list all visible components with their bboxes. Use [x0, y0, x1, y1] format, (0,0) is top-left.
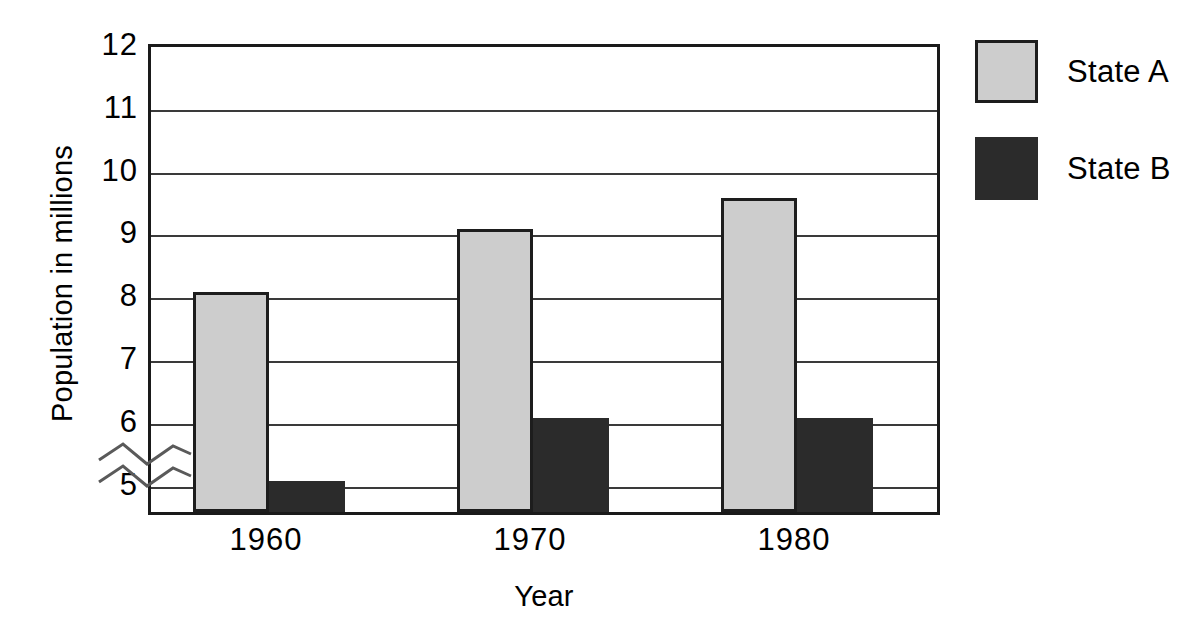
x-axis-tick-label: 1980 — [758, 524, 831, 555]
y-axis-tick-labels: 12111098765 — [86, 0, 138, 641]
x-axis-title: Year — [148, 580, 940, 613]
y-axis-tick-label: 9 — [86, 217, 138, 248]
legend-swatch — [975, 137, 1038, 200]
y-axis-tick-label: 11 — [86, 91, 138, 122]
bar-chart-figure: Population in millions 12111098765 19601… — [0, 0, 1193, 641]
plot-area — [148, 44, 940, 515]
bar[interactable] — [269, 481, 345, 512]
x-axis-tick-label: 1970 — [494, 524, 567, 555]
legend-item[interactable]: State A — [975, 40, 1169, 103]
y-axis-tick-label: 10 — [86, 154, 138, 185]
x-axis-tick-labels: 196019701980 — [148, 524, 940, 570]
y-axis-title: Population in millions — [46, 54, 79, 514]
y-axis-tick-label: 8 — [86, 280, 138, 311]
bar-group — [457, 47, 609, 512]
bar[interactable] — [533, 418, 609, 512]
y-axis-tick-label: 6 — [86, 405, 138, 436]
bar-group — [721, 47, 873, 512]
legend-item[interactable]: State B — [975, 137, 1171, 200]
bar-group — [193, 47, 345, 512]
bar[interactable] — [457, 229, 533, 512]
axis-break-squiggle-icon — [97, 438, 193, 498]
bar[interactable] — [797, 418, 873, 512]
y-axis-tick-label: 12 — [86, 29, 138, 60]
legend-swatch — [975, 40, 1038, 103]
legend-label: State B — [1067, 151, 1171, 187]
legend-label: State A — [1067, 54, 1169, 90]
bar[interactable] — [721, 198, 797, 512]
x-axis-tick-label: 1960 — [230, 524, 303, 555]
y-axis-tick-label: 7 — [86, 343, 138, 374]
bar[interactable] — [193, 292, 269, 512]
bar-series-container — [151, 47, 937, 512]
